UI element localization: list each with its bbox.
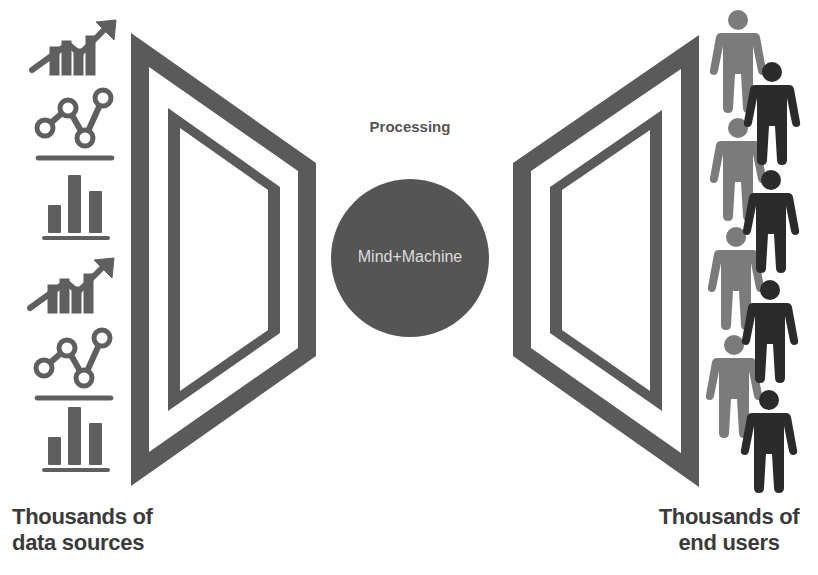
mind-machine-label: Mind+Machine (331, 248, 489, 266)
line-nodes-chart-icon (36, 90, 114, 160)
end-users-label-line1: Thousands of (634, 504, 818, 530)
right-funnel-frame (513, 35, 699, 487)
processing-heading: Processing (335, 114, 485, 140)
end-users-label-line2: end users (634, 530, 818, 556)
trend-up-chart-icon (30, 258, 114, 313)
data-sources-label: Thousands of data sources (12, 504, 153, 556)
data-sources-label-line1: Thousands of (12, 504, 153, 530)
end-user-people (706, 10, 800, 493)
diagram-canvas (0, 0, 818, 575)
data-sources-label-line2: data sources (12, 530, 153, 556)
person-icon (741, 390, 797, 493)
left-funnel-frame (131, 33, 316, 486)
bar-chart-icon (42, 407, 110, 472)
line-nodes-chart-icon (35, 330, 113, 400)
left-outer-frame (131, 33, 316, 486)
trend-up-chart-icon (32, 20, 116, 75)
left-inner-frame (168, 108, 280, 411)
bar-chart-icon (42, 175, 110, 240)
right-inner-frame (550, 110, 662, 411)
right-outer-frame (513, 35, 699, 487)
end-users-label: Thousands of end users (634, 504, 818, 556)
data-source-icons (30, 20, 116, 472)
